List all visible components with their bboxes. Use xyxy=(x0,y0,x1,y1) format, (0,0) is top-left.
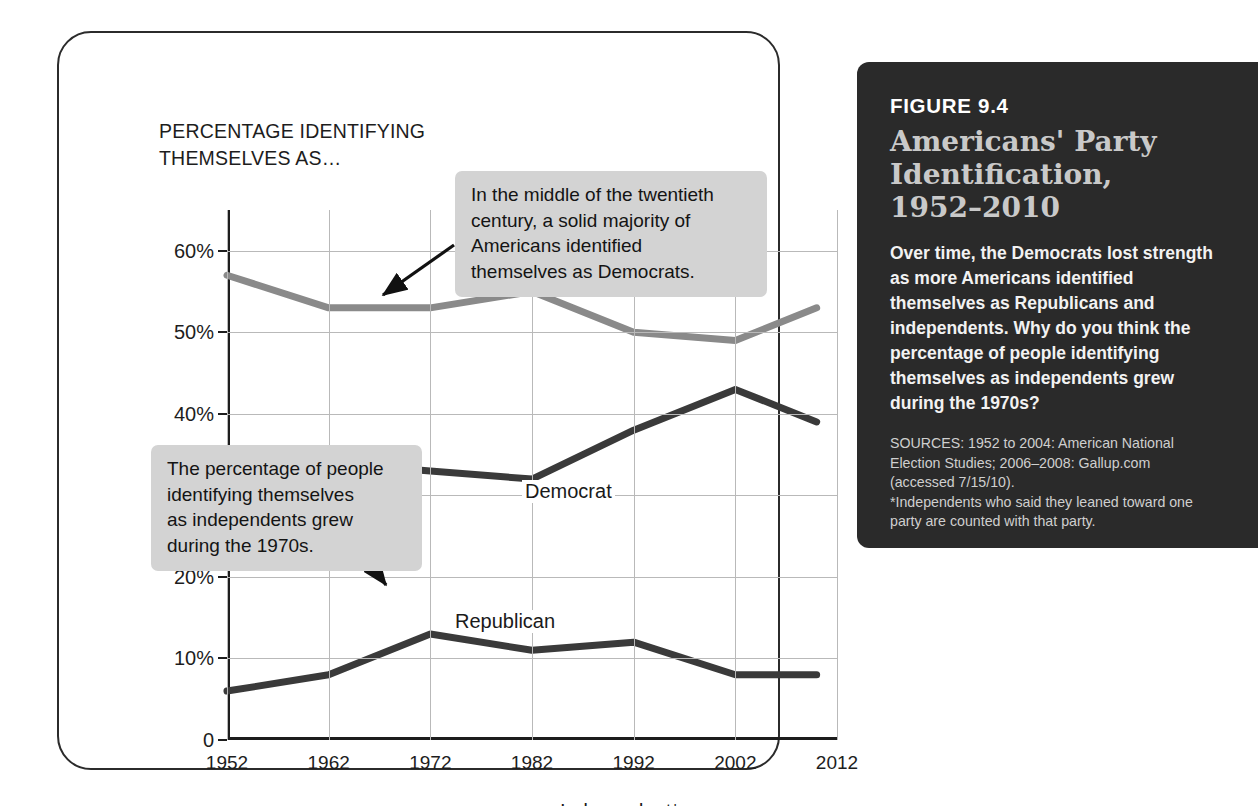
figure-panel: FIGURE 9.4 Americans' Party Identificati… xyxy=(857,62,1258,548)
y-tick-label: 50% xyxy=(174,321,214,344)
x-tick-label: 1992 xyxy=(613,752,655,774)
figure-root: PERCENTAGE IDENTIFYING THEMSELVES AS… 01… xyxy=(0,0,1258,806)
x-tick-label: 1952 xyxy=(206,752,248,774)
callout-democrat: In the middle of the twentieth century, … xyxy=(455,171,767,297)
figure-sources: SOURCES: 1952 to 2004: American National… xyxy=(890,434,1232,493)
figure-title: Americans' Party Identification, 1952–20… xyxy=(890,125,1232,224)
series-label-republican: Republican xyxy=(452,610,558,633)
figure-number: FIGURE 9.4 xyxy=(890,94,1232,118)
figure-footnote: *Independents who said they leaned towar… xyxy=(890,493,1232,532)
y-tick-mark xyxy=(218,331,227,333)
y-tick-label: 0 xyxy=(203,729,214,752)
y-tick-mark xyxy=(218,657,227,659)
y-tick-label: 60% xyxy=(174,239,214,262)
x-tick-label: 1962 xyxy=(308,752,350,774)
series-label-democrat: Democrat xyxy=(522,480,615,503)
x-tick-label: 2002 xyxy=(714,752,756,774)
y-tick-mark xyxy=(218,413,227,415)
series-line-independent xyxy=(227,634,817,691)
x-tick-label: 1972 xyxy=(409,752,451,774)
y-tick-mark xyxy=(218,250,227,252)
gridline-vertical xyxy=(837,210,838,740)
figure-description: Over time, the Democrats lost strength a… xyxy=(890,241,1232,416)
y-tick-label: 40% xyxy=(174,402,214,425)
y-tick-mark xyxy=(218,576,227,578)
y-tick-label: 10% xyxy=(174,647,214,670)
y-tick-mark xyxy=(218,739,227,741)
x-tick-label: 2012 xyxy=(816,752,858,774)
callout-independent: The percentage of people identifying the… xyxy=(151,445,422,571)
chart-card: PERCENTAGE IDENTIFYING THEMSELVES AS… 01… xyxy=(57,31,780,770)
series-label-independent: Independent* xyxy=(557,800,682,806)
x-tick-label: 1982 xyxy=(511,752,553,774)
chart-heading: PERCENTAGE IDENTIFYING THEMSELVES AS… xyxy=(159,118,425,172)
gridline-vertical xyxy=(430,210,431,740)
